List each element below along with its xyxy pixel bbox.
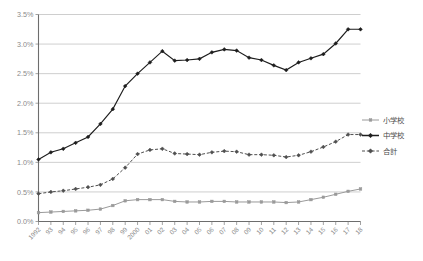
y-axis-tick-label: 3.0%: [17, 40, 34, 49]
x-axis-tick-label: 11: [267, 225, 277, 235]
data-point: [185, 58, 189, 62]
legend-swatch-marker: [369, 119, 372, 122]
x-axis-tick-label: 05: [193, 225, 203, 235]
x-axis-tick-label: 17: [341, 225, 351, 235]
data-point: [272, 63, 276, 67]
data-point: [297, 201, 300, 204]
data-point: [248, 201, 251, 204]
x-axis-tick-label: 06: [205, 225, 215, 235]
data-point: [334, 193, 337, 196]
data-point: [347, 190, 350, 193]
data-point: [123, 166, 127, 170]
line-chart: 0.0%0.5%1.0%1.5%2.0%2.5%3.0%3.5%19929394…: [0, 0, 423, 261]
x-axis-tick-label: 98: [106, 225, 116, 235]
data-point: [235, 150, 239, 154]
data-point: [136, 198, 139, 201]
data-point: [149, 198, 152, 201]
data-point: [359, 27, 363, 31]
data-point: [284, 155, 288, 159]
data-point: [37, 211, 40, 214]
data-point: [124, 200, 127, 203]
data-point: [210, 150, 214, 154]
x-axis-tick-label: 14: [304, 225, 314, 235]
legend: 小学校中学校合計: [362, 116, 405, 156]
data-point: [50, 211, 53, 214]
data-point: [222, 48, 226, 52]
x-axis-tick-label: 08: [230, 225, 240, 235]
data-point: [285, 201, 288, 204]
x-axis-tick-label: 96: [81, 225, 91, 235]
data-point: [310, 198, 313, 201]
data-point: [160, 147, 164, 151]
data-point: [99, 208, 102, 211]
data-point: [359, 133, 363, 137]
x-axis-tick-label: 97: [94, 225, 104, 235]
legend-label[interactable]: 中学校: [383, 131, 405, 140]
legend-label[interactable]: 小学校: [383, 116, 405, 125]
data-point: [223, 200, 226, 203]
x-axis-tick-label: 10: [255, 225, 265, 235]
data-point: [74, 187, 78, 191]
series-2: [37, 27, 363, 161]
x-axis-tick-label: 2000: [126, 225, 141, 240]
series-line: [39, 29, 361, 159]
legend-label[interactable]: 合計: [383, 147, 398, 156]
x-axis-tick-label: 95: [69, 225, 79, 235]
x-axis-tick-label: 02: [156, 225, 166, 235]
data-point: [273, 201, 276, 204]
data-point: [211, 200, 214, 203]
data-point: [74, 210, 77, 213]
x-axis-tick-label: 93: [44, 225, 54, 235]
data-point: [87, 209, 90, 212]
data-point: [309, 56, 313, 60]
data-point: [235, 201, 238, 204]
y-axis-tick-label: 2.5%: [17, 69, 34, 78]
data-point: [148, 148, 152, 152]
y-axis-tick-label: 0.5%: [17, 188, 34, 197]
x-axis-tick-label: 16: [329, 225, 339, 235]
data-point: [62, 210, 65, 213]
x-axis-tick-label: 03: [168, 225, 178, 235]
data-point: [222, 149, 226, 153]
data-point: [272, 153, 276, 157]
data-point: [321, 145, 325, 149]
y-axis-tick-label: 0.0%: [17, 217, 34, 226]
y-axis-tick-label: 1.0%: [17, 158, 34, 167]
data-point: [297, 153, 301, 157]
x-axis-tick-label: 09: [242, 225, 252, 235]
data-point: [49, 190, 53, 194]
x-axis-tick-label: 07: [217, 225, 227, 235]
data-point: [260, 153, 264, 157]
data-point: [185, 152, 189, 156]
x-axis-tick-label: 01: [143, 225, 153, 235]
legend-swatch-marker: [368, 133, 373, 138]
x-axis-tick-label: 13: [292, 225, 302, 235]
y-axis-tick-label: 3.5%: [17, 10, 34, 19]
data-point: [322, 196, 325, 199]
data-point: [37, 192, 41, 196]
series-line: [39, 135, 361, 194]
x-axis-tick-label: 15: [317, 225, 327, 235]
data-point: [173, 200, 176, 203]
data-point: [334, 140, 338, 144]
data-point: [260, 201, 263, 204]
data-point: [86, 185, 90, 189]
series-3: [37, 133, 363, 196]
data-point: [74, 141, 78, 145]
data-point: [260, 58, 264, 62]
data-point: [173, 152, 177, 156]
data-point: [198, 153, 202, 157]
x-axis-tick-label: 1992: [27, 225, 42, 240]
data-point: [112, 204, 115, 207]
x-axis-tick-label: 94: [56, 225, 66, 235]
x-axis-tick-label: 12: [279, 225, 289, 235]
data-point: [309, 150, 313, 154]
x-axis-tick-label: 18: [354, 225, 364, 235]
data-point: [247, 153, 251, 157]
data-point: [161, 198, 164, 201]
legend-swatch-marker: [368, 149, 373, 154]
data-point: [61, 147, 65, 151]
data-point: [99, 183, 103, 187]
data-point: [136, 152, 140, 156]
x-axis-tick-label: 04: [180, 225, 190, 235]
